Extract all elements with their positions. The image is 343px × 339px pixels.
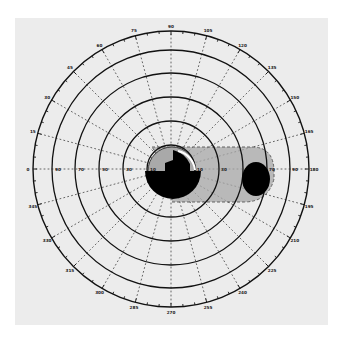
tick-mark: [282, 90, 284, 91]
angle-label: 120: [238, 43, 247, 48]
tick-mark: [135, 298, 136, 302]
tick-mark: [258, 273, 260, 275]
angle-label: 75: [131, 28, 137, 33]
tick-mark: [38, 204, 42, 205]
angle-label: 285: [130, 305, 139, 310]
angle-label: 330: [43, 238, 52, 243]
tick-mark: [300, 204, 304, 205]
tick-mark: [258, 63, 260, 65]
tick-mark: [38, 133, 42, 134]
tick-mark: [102, 49, 104, 52]
axis-label-left: 70: [78, 167, 84, 172]
tick-mark: [287, 100, 290, 102]
angle-label: 255: [204, 305, 213, 310]
angle-label: 60: [97, 43, 103, 48]
tick-mark: [92, 280, 93, 282]
angle-label: 225: [268, 268, 277, 273]
axis-label-right: 70: [269, 167, 275, 172]
tick-mark: [51, 100, 54, 102]
angle-label: 90: [168, 24, 174, 29]
tick-mark: [92, 56, 93, 58]
angle-label: 150: [290, 95, 299, 100]
tick-mark: [282, 247, 284, 248]
angle-label: 45: [67, 65, 73, 70]
angle-label: 195: [305, 204, 314, 209]
tick-mark: [51, 236, 54, 238]
angle-label: 300: [95, 290, 104, 295]
angle-label: 30: [44, 95, 50, 100]
tick-mark: [238, 49, 240, 52]
axis-label-left: 30: [126, 167, 132, 172]
angle-label: 135: [268, 65, 277, 70]
angle-label: 180: [310, 167, 319, 172]
angle-label: 315: [66, 268, 75, 273]
angle-label: 105: [204, 28, 213, 33]
tick-mark: [206, 36, 207, 40]
axis-label-left: 90: [55, 167, 61, 172]
axis-label-right: 30: [221, 167, 227, 172]
tick-mark: [206, 298, 207, 302]
visual-field-chart: 0153045607590105120135150165180195210225…: [0, 0, 343, 339]
tick-mark: [249, 280, 250, 282]
angle-label: 210: [290, 238, 299, 243]
tick-mark: [266, 71, 269, 74]
axis-label-left: 50: [102, 167, 108, 172]
angle-label: 165: [305, 129, 314, 134]
tick-mark: [73, 264, 76, 267]
angle-label: 15: [30, 129, 36, 134]
blind-spot: [242, 162, 270, 196]
tick-mark: [58, 247, 60, 248]
tick-mark: [65, 256, 67, 258]
angle-label: 345: [28, 204, 37, 209]
axis-label-right: 90: [292, 167, 298, 172]
tick-mark: [82, 63, 84, 65]
tick-mark: [266, 264, 269, 267]
tick-mark: [275, 80, 277, 82]
angle-label: 0: [27, 167, 30, 172]
tick-mark: [82, 273, 84, 275]
tick-mark: [238, 285, 240, 288]
tick-mark: [102, 285, 104, 288]
tick-mark: [58, 90, 60, 91]
tick-mark: [65, 80, 67, 82]
angle-label: 240: [238, 290, 247, 295]
tick-mark: [135, 36, 136, 40]
tick-mark: [275, 256, 277, 258]
tick-mark: [249, 56, 250, 58]
tick-mark: [300, 133, 304, 134]
angle-label: 270: [167, 310, 176, 315]
tick-mark: [73, 71, 76, 74]
